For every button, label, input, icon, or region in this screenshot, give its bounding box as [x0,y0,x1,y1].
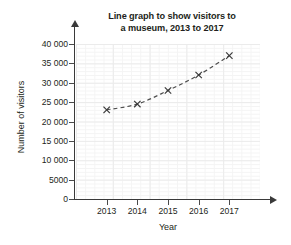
chart-title-line-2: a museum, 2013 to 2017 [120,23,223,33]
y-axis-tick-label: 0 [22,194,68,204]
y-axis-tick-labels: 0500010 00015 00020 00025 00030 00035 00… [20,0,68,245]
y-axis-arrow-icon [71,20,79,27]
y-axis-tick-label: 40 000 [22,39,68,49]
x-axis-tick [137,200,138,205]
x-axis-tick [199,200,200,205]
y-axis-tick-label: 10 000 [22,155,68,165]
x-axis-arrow-icon [270,196,277,204]
y-axis-tick-label: 20 000 [22,117,68,127]
y-axis-tick [69,141,74,142]
x-axis-tick [168,200,169,205]
chart-title-line-1: Line graph to show visitors to [108,11,236,21]
x-axis-tick [107,200,108,205]
y-axis-tick [69,180,74,181]
line-chart: Line graph to show visitors to a museum,… [0,0,291,245]
y-axis-tick [69,122,74,123]
x-axis-title: Year [76,222,260,232]
y-axis-tick-label: 35 000 [22,58,68,68]
y-axis-title: Number of visitors [16,52,26,182]
x-axis-tick [229,200,230,205]
y-axis-tick [69,44,74,45]
y-axis-tick [69,83,74,84]
y-axis-tick-label: 25 000 [22,97,68,107]
y-axis-tick [69,199,74,200]
y-axis-line [74,26,75,200]
y-axis-tick-label: 30 000 [22,78,68,88]
y-axis-tick [69,63,74,64]
x-axis-line [74,199,271,200]
y-axis-tick [69,102,74,103]
y-axis-tick-label: 15 000 [22,136,68,146]
plot-area [76,44,260,199]
chart-title: Line graph to show visitors to a museum,… [72,10,272,34]
y-axis-tick-label: 5000 [22,175,68,185]
x-axis-tick-label: 2017 [209,206,249,216]
y-axis-tick [69,160,74,161]
